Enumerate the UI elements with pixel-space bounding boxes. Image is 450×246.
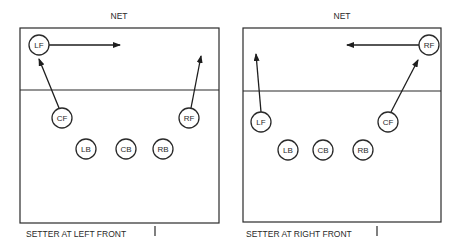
caption: SETTER AT LEFT FRONT xyxy=(26,229,126,239)
player-cb: CB xyxy=(313,140,333,160)
caption: SETTER AT RIGHT FRONT xyxy=(246,229,352,239)
court-boundary xyxy=(243,28,441,222)
player-lf: LF xyxy=(29,35,49,55)
diagram-setter-right-front: NET RF LF CF LB CB RB xyxy=(243,11,441,239)
player-lb: LB xyxy=(76,139,96,159)
svg-text:CF: CF xyxy=(383,118,394,127)
player-rf: RF xyxy=(179,108,199,128)
svg-text:LB: LB xyxy=(283,146,293,155)
svg-text:RF: RF xyxy=(424,41,435,50)
svg-text:CF: CF xyxy=(57,114,68,123)
diagram-setter-left-front: NET LF CF RF LB CB RB xyxy=(20,11,219,239)
player-lb: LB xyxy=(278,140,298,160)
svg-text:RF: RF xyxy=(184,114,195,123)
svg-text:CB: CB xyxy=(317,146,328,155)
player-cb: CB xyxy=(116,139,136,159)
player-rb: RB xyxy=(153,139,173,159)
movement-arrows xyxy=(39,45,201,108)
net-label: NET xyxy=(334,11,351,21)
svg-text:LB: LB xyxy=(81,145,91,154)
player-rb: RB xyxy=(353,140,373,160)
svg-text:LF: LF xyxy=(256,118,265,127)
net-label: NET xyxy=(111,11,128,21)
player-rf: RF xyxy=(419,35,439,55)
svg-text:CB: CB xyxy=(120,145,131,154)
player-cf: CF xyxy=(378,112,398,132)
movement-arrows xyxy=(256,45,419,112)
player-lf: LF xyxy=(251,112,271,132)
arrow-lf-icon xyxy=(256,54,261,112)
player-cf: CF xyxy=(52,108,72,128)
arrow-rf-icon xyxy=(191,56,201,108)
rotation-diagrams: NET LF CF RF LB CB RB xyxy=(0,0,450,246)
arrow-cf-icon xyxy=(39,59,59,108)
svg-text:RB: RB xyxy=(157,145,168,154)
svg-text:LF: LF xyxy=(34,41,43,50)
arrow-cf-icon xyxy=(391,60,418,112)
svg-text:RB: RB xyxy=(357,146,368,155)
